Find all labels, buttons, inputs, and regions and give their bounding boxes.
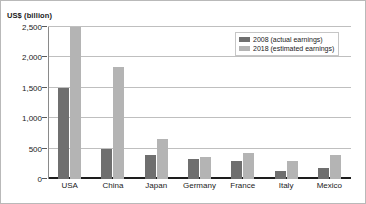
bar-group (135, 27, 178, 179)
bar (318, 168, 329, 179)
chart-legend: 2008 (actual earnings)2018 (estimated ea… (235, 32, 339, 56)
y-axis-tick-mark (42, 26, 47, 27)
bar-chart: US$ (billion) 05001,0001,5002,0002,500 U… (0, 0, 366, 204)
x-axis-tick-labels: USAChinaJapanGermanyFranceItalyMexico (48, 181, 351, 190)
legend-label: 2018 (estimated earnings) (253, 45, 334, 52)
bar (188, 159, 199, 179)
bar (275, 171, 286, 179)
y-axis-tick-mark (42, 87, 47, 88)
y-axis-tick-mark (42, 178, 47, 179)
y-axis-title: US$ (billion) (7, 11, 52, 20)
y-axis-tick-label: 1,000 (22, 114, 42, 123)
legend-label: 2008 (actual earnings) (253, 36, 323, 43)
x-axis-tick-label: Japan (135, 181, 178, 190)
x-axis-tick-label: Germany (178, 181, 221, 190)
bar-group (91, 27, 134, 179)
x-axis-tick-label: Italy (264, 181, 307, 190)
y-axis-tick-mark (42, 56, 47, 57)
bar (330, 155, 341, 179)
y-axis-tick-mark (42, 117, 47, 118)
legend-swatch (239, 46, 250, 51)
y-axis-tick-labels: 05001,0001,5002,0002,500 (1, 27, 42, 179)
y-axis-tick-mark (42, 148, 47, 149)
x-axis-tick-label: France (221, 181, 264, 190)
bar (58, 88, 69, 179)
bar (113, 67, 124, 179)
y-axis-tick-label: 2,500 (22, 23, 42, 32)
x-axis-tick-label: USA (48, 181, 91, 190)
y-axis-tick-label: 0 (38, 175, 42, 184)
y-axis-tick-label: 2,000 (22, 53, 42, 62)
bar (231, 161, 242, 179)
y-axis-tick-label: 500 (29, 144, 42, 153)
bar-group (48, 27, 91, 179)
legend-swatch (239, 37, 250, 42)
bar (287, 161, 298, 179)
bar (70, 27, 81, 179)
bar-group (178, 27, 221, 179)
x-axis-tick-label: China (91, 181, 134, 190)
legend-entry: 2018 (estimated earnings) (239, 44, 334, 53)
legend-entry: 2008 (actual earnings) (239, 35, 334, 44)
bar (145, 155, 156, 179)
bar (101, 149, 112, 179)
bar (200, 157, 211, 179)
y-axis-tick-label: 1,500 (22, 83, 42, 92)
x-axis-tick-label: Mexico (308, 181, 351, 190)
bar (157, 139, 168, 179)
bar (243, 153, 254, 179)
